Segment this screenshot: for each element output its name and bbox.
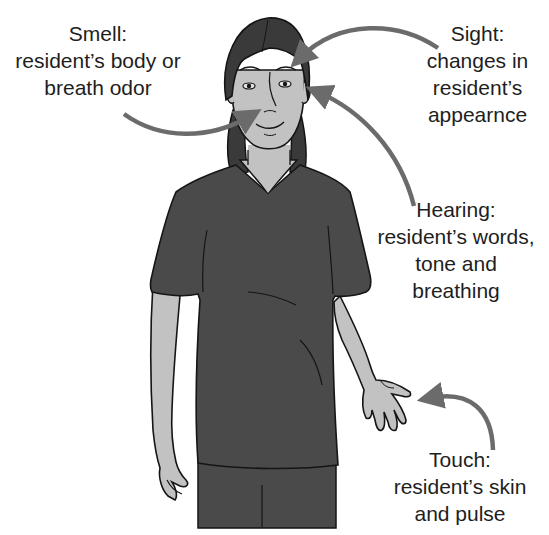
touch-line-2: and pulse — [380, 500, 540, 527]
left-arm — [151, 283, 188, 500]
touch-label: Touch: resident’s skin and pulse — [380, 446, 540, 527]
sight-label: Sight: changes in resident’s appearnce — [410, 20, 545, 128]
sight-line-3: appearnce — [410, 101, 545, 128]
pants — [198, 460, 336, 528]
sight-title: Sight: — [410, 20, 545, 47]
smell-line-1: resident’s body or — [8, 47, 188, 74]
smell-title: Smell: — [8, 20, 188, 47]
hearing-title: Hearing: — [366, 196, 546, 223]
sight-line-1: changes in — [410, 47, 545, 74]
smell-line-2: breath odor — [8, 74, 188, 101]
touch-title: Touch: — [380, 446, 540, 473]
hearing-line-2: tone and — [366, 250, 546, 277]
hearing-label: Hearing: resident’s words, tone and brea… — [366, 196, 546, 304]
senses-illustration: Smell: resident’s body or breath odor Si… — [0, 0, 549, 535]
sight-line-2: resident’s — [410, 74, 545, 101]
hearing-line-3: breathing — [366, 277, 546, 304]
smell-label: Smell: resident’s body or breath odor — [8, 20, 188, 101]
touch-arrow — [430, 396, 493, 450]
hearing-line-1: resident’s words, — [366, 223, 546, 250]
touch-line-1: resident’s skin — [380, 473, 540, 500]
right-arm — [334, 296, 411, 431]
